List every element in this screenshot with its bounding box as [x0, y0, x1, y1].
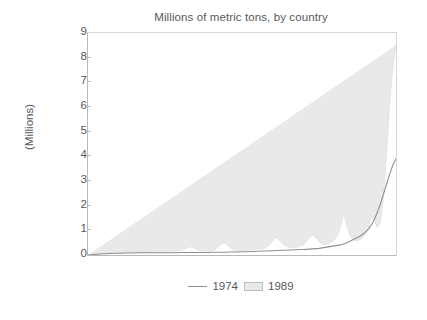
y-axis-tick-label: 4 [65, 149, 87, 161]
y-axis-tick-label: 0 [65, 248, 87, 260]
series-area-1989 [88, 45, 396, 255]
y-axis-tick-mark [87, 155, 91, 156]
y-axis-tick-mark [87, 205, 91, 206]
y-axis-tick-mark [87, 180, 91, 181]
chart-container: Millions of metric tons, by country (Mil… [0, 0, 427, 320]
y-axis-tick-label: 6 [65, 100, 87, 112]
y-axis-title: (Millions) [23, 82, 35, 172]
y-axis-tick-mark [87, 57, 91, 58]
plot-area [87, 32, 397, 256]
chart-title: Millions of metric tons, by country [87, 11, 395, 23]
plot-svg [88, 33, 396, 255]
legend-item-1989[interactable]: 1989 [244, 281, 294, 293]
y-axis-tick-mark [87, 229, 91, 230]
y-axis-tick-label: 9 [65, 26, 87, 38]
chart-legend: 19741989 [87, 281, 395, 293]
legend-line-swatch-icon [188, 286, 207, 287]
y-axis-tick-mark [87, 106, 91, 107]
y-axis-tick-label: 5 [65, 125, 87, 137]
legend-item-1974[interactable]: 1974 [188, 281, 238, 293]
y-axis-tick-label: 2 [65, 199, 87, 211]
y-axis-tick-label: 3 [65, 174, 87, 186]
legend-label: 1989 [268, 281, 294, 293]
legend-label: 1974 [212, 281, 238, 293]
y-axis-tick-labels: 9876543210 [57, 32, 87, 254]
y-axis-tick-label: 7 [65, 75, 87, 87]
legend-box-swatch-icon [244, 282, 263, 291]
y-axis-tick-mark [87, 131, 91, 132]
y-axis-tick-label: 1 [65, 223, 87, 235]
y-axis-tick-label: 8 [65, 51, 87, 63]
y-axis-tick-mark [87, 81, 91, 82]
